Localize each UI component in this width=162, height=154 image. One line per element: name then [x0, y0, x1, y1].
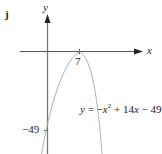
equation-eq: = −: [85, 103, 103, 115]
x-axis-arrow-icon: [134, 49, 143, 55]
part-label: j: [5, 9, 9, 20]
x-axis-label: x: [147, 45, 152, 56]
equation-mid: + 14: [111, 103, 134, 115]
y-axis-label: y: [43, 2, 48, 13]
y-intercept-label: −49: [22, 124, 39, 135]
y-axis-arrow-icon: [45, 14, 51, 23]
equation-tail: − 49: [139, 103, 162, 115]
equation-label: y = −x2 + 14x − 49: [80, 104, 162, 115]
parabola-figure: j y x 7 −49 y = −x2 + 14x − 49: [0, 0, 162, 154]
vertex-label: 7: [75, 56, 81, 67]
